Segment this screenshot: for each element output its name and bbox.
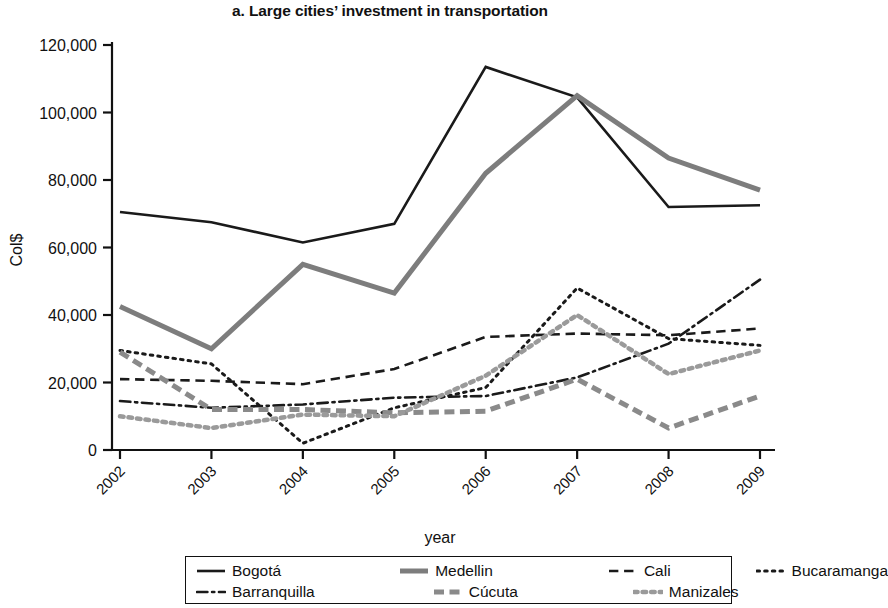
legend-row: BogotáMedellinCaliBucaramanga (196, 560, 731, 581)
y-tick-label: 60,000 (48, 240, 97, 257)
legend-swatch-dotted-thick (633, 585, 663, 599)
legend-item-bogot[interactable]: Bogotá (196, 562, 281, 580)
x-tick-label: 2003 (184, 462, 220, 498)
x-tick-label: 2002 (93, 462, 129, 498)
x-tick-label: 2009 (733, 462, 769, 498)
y-tick-label: 80,000 (48, 172, 97, 189)
x-tick-label: 2007 (550, 462, 586, 498)
line-chart-plot: 020,00040,00060,00080,000100,000120,000C… (0, 0, 780, 550)
y-tick-label: 20,000 (48, 375, 97, 392)
legend-item-barranquilla[interactable]: Barranquilla (196, 583, 315, 601)
series-line-ccuta (120, 352, 760, 428)
legend-swatch-solid (196, 564, 226, 578)
legend-label: Bucaramanga (792, 562, 888, 580)
legend-swatch-solid (399, 564, 429, 578)
legend-item-manizales[interactable]: Manizales (633, 583, 739, 601)
legend-swatch-dashed (608, 564, 638, 578)
legend-item-cali[interactable]: Cali (608, 562, 671, 580)
legend-item-bucaramanga[interactable]: Bucaramanga (756, 562, 888, 580)
y-tick-label: 0 (88, 442, 97, 459)
legend-label: Barranquilla (232, 583, 315, 601)
y-tick-label: 120,000 (39, 37, 97, 54)
legend-swatch-dotted (756, 564, 786, 578)
legend-label: Cali (644, 562, 671, 580)
legend-label: Medellin (435, 562, 493, 580)
y-tick-label: 100,000 (39, 105, 97, 122)
x-tick-label: 2005 (367, 462, 403, 498)
y-tick-label: 40,000 (48, 307, 97, 324)
legend-item-medellin[interactable]: Medellin (399, 562, 493, 580)
x-axis-title: year (424, 529, 456, 546)
legend-row: BarranquillaCúcutaManizales (196, 581, 731, 602)
series-line-bucaramanga (120, 288, 760, 443)
legend-label: Manizales (669, 583, 739, 601)
legend-item-ccuta[interactable]: Cúcuta (433, 583, 518, 601)
y-axis-title: Col$ (8, 233, 25, 266)
x-tick-label: 2004 (275, 462, 311, 498)
legend-label: Cúcuta (469, 583, 518, 601)
legend-swatch-dashdot (196, 585, 226, 599)
series-line-cali (120, 329, 760, 385)
legend-swatch-dashed-thick (433, 585, 463, 599)
x-tick-label: 2006 (458, 462, 494, 498)
x-tick-label: 2008 (641, 462, 677, 498)
legend-label: Bogotá (232, 562, 281, 580)
chart-legend: BogotáMedellinCaliBucaramangaBarranquill… (185, 556, 732, 604)
